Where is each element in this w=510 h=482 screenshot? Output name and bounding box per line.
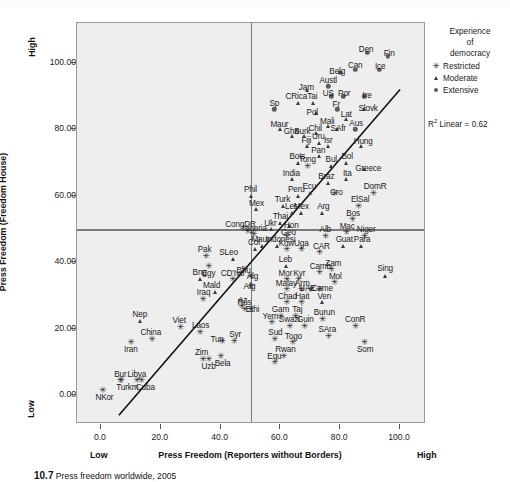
legend-item[interactable]: ✳Restricted [430, 61, 510, 71]
data-point-label: ElSal [351, 195, 369, 204]
data-point-marker [341, 244, 345, 248]
r-squared-annotation: R2 Linear = 0.62 [428, 118, 488, 129]
data-point-marker [320, 211, 324, 215]
data-point-label: Guin [297, 315, 314, 324]
legend-title-line-2: of [430, 37, 510, 48]
x-tick-label: 80.0 [331, 432, 348, 442]
data-point-marker [317, 154, 321, 158]
data-point-label: Ecu [302, 182, 316, 191]
data-point-marker [254, 207, 258, 211]
data-point-label: Arg [317, 202, 329, 211]
data-point-label: SAra [318, 325, 336, 334]
legend-title: Experience of democracy [430, 26, 510, 59]
data-point-marker [269, 227, 273, 231]
data-point-marker [299, 211, 303, 215]
data-point-label: Ice [375, 61, 385, 70]
data-point-marker [278, 221, 282, 225]
data-point-label: CAR [313, 241, 330, 250]
y-axis-title: Press Freedom (Freedom House) [0, 153, 8, 291]
scatter-plot-area: ✳NKor✳Turkm✳Bur✳Libya✳Cuba✳Iran✳ChinaNep… [76, 22, 425, 423]
data-point-label: Malay [276, 278, 297, 287]
data-point-marker [138, 319, 142, 323]
data-point-label: Lat [341, 110, 352, 119]
x-tick-label: 100.0 [388, 432, 410, 442]
data-point-label: Austl [320, 75, 337, 84]
data-point-marker [296, 161, 300, 165]
data-point-marker [383, 274, 387, 278]
data-point-marker [290, 177, 294, 181]
data-point-marker [344, 177, 348, 181]
data-point-label: Mex [294, 202, 309, 211]
data-point-marker: ✳ [177, 324, 184, 331]
data-point-marker [317, 141, 321, 145]
data-point-label: Yem [263, 311, 279, 320]
data-point-label: Som [357, 345, 373, 354]
data-point-label: US [323, 89, 334, 98]
legend: Experience of democracy ✳RestrictedModer… [430, 26, 510, 95]
data-point-label: Laos [192, 321, 209, 330]
data-point-label: Afg [244, 281, 256, 290]
data-point-marker: ✳ [148, 335, 155, 342]
data-point-label: Ethi [246, 304, 260, 313]
data-point-label: Thai [273, 212, 288, 221]
data-point-label: Hung [354, 137, 373, 146]
data-point-marker [296, 101, 300, 105]
data-point-label: Tun [210, 334, 223, 343]
caption-number: 10.7 [34, 470, 53, 481]
data-point-label: Ven [317, 291, 331, 300]
x-axis-title: Press Freedom (Reporters without Borders… [158, 450, 341, 460]
data-point-label: Braz [318, 172, 334, 181]
figure-root: Press Freedom (Freedom House) Low High P… [0, 0, 510, 482]
data-point-label: Ire [363, 91, 372, 100]
data-point-label: Mol [329, 271, 342, 280]
data-point-label: Iran [124, 345, 138, 354]
data-point-label: Bela [215, 358, 231, 367]
data-point-marker [320, 300, 324, 304]
x-axis-low-label: Low [90, 450, 108, 460]
data-point-label: SLeo [219, 248, 238, 257]
r2-value: Linear = 0.62 [437, 120, 487, 129]
x-tick-mark [399, 424, 400, 429]
x-tick-label: 40.0 [211, 432, 228, 442]
data-point-label: Isr [324, 135, 333, 144]
data-point-label: NKor [95, 392, 113, 401]
data-point-label: Niger [357, 225, 376, 234]
data-point-label: Fin [384, 49, 395, 58]
data-point-label: Greece [355, 164, 381, 173]
data-point-label: Kyr [293, 268, 305, 277]
data-point-label: Bol [342, 152, 353, 161]
legend-item[interactable]: Moderate [430, 73, 510, 83]
data-point-marker [326, 144, 330, 148]
legend-title-line-3: democracy [430, 48, 510, 59]
data-point-label: Mor [279, 268, 293, 277]
data-point-label: Hon [284, 220, 299, 229]
data-point-label: Aus [349, 118, 363, 127]
circle-marker-icon [430, 85, 442, 95]
data-point-marker: ✳ [231, 337, 238, 344]
data-point-label: Maur [270, 120, 288, 129]
y-axis-high-label: High [27, 37, 37, 57]
data-point-label: Phil [244, 185, 257, 194]
data-point-label: Chad [278, 291, 297, 300]
data-point-label: Bots [289, 152, 305, 161]
data-point-label: Alb [320, 225, 331, 234]
x-tick-label: 60.0 [271, 432, 288, 442]
data-point-label: CRica [286, 92, 308, 101]
data-point-label: Sp [270, 98, 280, 107]
data-point-label: Can [348, 60, 363, 69]
data-point-label: Mex [249, 198, 264, 207]
data-point-label: Bur [114, 369, 126, 378]
x-tick-label: 0.0 [94, 432, 106, 442]
data-point-label: Zam [325, 258, 341, 267]
legend-item[interactable]: Extensive [430, 85, 510, 95]
data-point-label: Togo [285, 331, 302, 340]
data-point-label: Burun [314, 308, 335, 317]
x-tick-mark [160, 424, 161, 429]
legend-items: ✳RestrictedModerateExtensive [430, 61, 510, 95]
x-tick-mark [339, 424, 340, 429]
data-point-label: Sud [268, 328, 282, 337]
legend-title-line-1: Experience [430, 26, 510, 37]
data-point-label: Mald [203, 281, 220, 290]
data-point-marker [311, 101, 315, 105]
data-point-label: Viet [173, 316, 186, 325]
